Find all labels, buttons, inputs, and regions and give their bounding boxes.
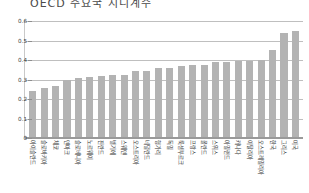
y-tick-mark xyxy=(28,21,32,22)
x-label-slot: 벨기에 xyxy=(107,139,118,193)
x-label-slot: 핀란드 xyxy=(96,139,107,193)
bar[interactable] xyxy=(86,77,93,138)
x-tick-label: 슬로바키아 xyxy=(41,140,47,165)
x-label-slot: 오스트리아 xyxy=(130,139,141,193)
x-tick-label: 이탈리아 xyxy=(247,140,253,160)
bar[interactable] xyxy=(143,71,150,138)
x-tick-label: 그리스 xyxy=(281,140,287,155)
x-label-slot: 독일 xyxy=(164,139,175,193)
y-tick-label: 0.4 xyxy=(5,57,27,63)
x-tick-label: 스위스 xyxy=(212,140,218,155)
y-tick-mark xyxy=(28,41,32,42)
bar[interactable] xyxy=(292,31,299,138)
x-tick-label: 룩셈부르크 xyxy=(178,140,184,165)
x-tick-label: 헝가리 xyxy=(155,140,161,155)
x-label-slot: 네덜란드 xyxy=(141,139,152,193)
bar[interactable] xyxy=(246,61,253,138)
y-tick-mark xyxy=(28,99,32,100)
x-label-slot: 한국 xyxy=(267,139,278,193)
x-label-slot: 미국 xyxy=(290,139,301,193)
bar-slot xyxy=(210,21,221,138)
bar[interactable] xyxy=(269,50,276,138)
x-tick-label: 벨기에 xyxy=(110,140,116,155)
x-tick-label: 오스트리아 xyxy=(133,140,139,165)
bar[interactable] xyxy=(155,68,162,138)
bar-series xyxy=(25,21,303,138)
x-label-slot: 아일랜드 xyxy=(221,139,232,193)
bar[interactable] xyxy=(212,62,219,138)
x-label-slot: 체코 xyxy=(50,139,61,193)
bar-slot xyxy=(187,21,198,138)
bar[interactable] xyxy=(258,60,265,138)
y-tick-label: 0 xyxy=(5,135,27,141)
bar-slot xyxy=(61,21,72,138)
y-tick-label: 0.1 xyxy=(5,116,27,122)
bar-slot xyxy=(153,21,164,138)
x-label-slot: 폴란드 xyxy=(198,139,209,193)
x-tick-label: 네덜란드 xyxy=(144,140,150,160)
bar[interactable] xyxy=(63,80,70,138)
x-tick-label: 핀란드 xyxy=(98,140,104,155)
x-axis-labels: 아이슬란드슬로바키아체코덴마크슬로베니아노르웨이핀란드벨기에스웨덴오스트리아네덜… xyxy=(25,139,303,193)
bar[interactable] xyxy=(178,66,185,138)
y-tick-mark xyxy=(28,60,32,61)
bar[interactable] xyxy=(52,86,59,138)
bar-slot xyxy=(96,21,107,138)
bar-slot xyxy=(278,21,289,138)
y-tick-label: 0.5 xyxy=(5,38,27,44)
x-tick-label: 폴란드 xyxy=(201,140,207,155)
bar[interactable] xyxy=(235,61,242,138)
x-label-slot: 슬로바키아 xyxy=(38,139,49,193)
x-label-slot: 덴마크 xyxy=(61,139,72,193)
x-tick-label: 캐나다 xyxy=(235,140,241,155)
y-tick-label: 0.3 xyxy=(5,77,27,83)
x-label-slot: 이탈리아 xyxy=(244,139,255,193)
bar[interactable] xyxy=(280,33,287,138)
x-label-slot: 스웨덴 xyxy=(118,139,129,193)
bar-slot xyxy=(141,21,152,138)
bar[interactable] xyxy=(201,65,208,138)
x-axis-line xyxy=(25,137,303,138)
x-tick-label: 아일랜드 xyxy=(224,140,230,160)
x-label-slot: 아이슬란드 xyxy=(27,139,38,193)
bar[interactable] xyxy=(98,76,105,138)
x-label-slot: 그리스 xyxy=(278,139,289,193)
bar-slot xyxy=(175,21,186,138)
x-label-slot: 노르웨이 xyxy=(84,139,95,193)
x-tick-label: 체코 xyxy=(53,140,59,150)
bar[interactable] xyxy=(75,78,82,138)
bar-slot xyxy=(84,21,95,138)
bar[interactable] xyxy=(223,62,230,138)
bar[interactable] xyxy=(109,75,116,138)
bar[interactable] xyxy=(132,71,139,138)
x-tick-label: 덴마크 xyxy=(64,140,70,155)
y-tick-mark xyxy=(28,80,32,81)
x-label-slot: 캐나다 xyxy=(233,139,244,193)
x-tick-label: 프랑스 xyxy=(190,140,196,155)
x-label-slot: 슬로베니아 xyxy=(73,139,84,193)
x-tick-label: 미국 xyxy=(292,140,298,150)
x-tick-label: 노르웨이 xyxy=(87,140,93,160)
bar-slot xyxy=(38,21,49,138)
bar[interactable] xyxy=(189,65,196,138)
y-tick-label: 0.2 xyxy=(5,96,27,102)
bar-slot xyxy=(221,21,232,138)
bar-slot xyxy=(244,21,255,138)
bar[interactable] xyxy=(166,68,173,138)
bar-slot xyxy=(130,21,141,138)
x-tick-label: 오스트레일리아 xyxy=(258,140,264,175)
bar-slot xyxy=(255,21,266,138)
x-tick-label: 아이슬란드 xyxy=(30,140,36,165)
bar-slot xyxy=(290,21,301,138)
chart-title: OECD 주요국 지니계수 xyxy=(30,0,230,8)
bar[interactable] xyxy=(121,75,128,138)
bar-slot xyxy=(233,21,244,138)
y-tick-label: 0.6 xyxy=(5,18,27,24)
bar-slot xyxy=(50,21,61,138)
bar-slot xyxy=(107,21,118,138)
bar[interactable] xyxy=(41,88,48,138)
bar-slot xyxy=(118,21,129,138)
x-label-slot: 프랑스 xyxy=(187,139,198,193)
y-tick-mark xyxy=(28,119,32,120)
bar-slot xyxy=(198,21,209,138)
